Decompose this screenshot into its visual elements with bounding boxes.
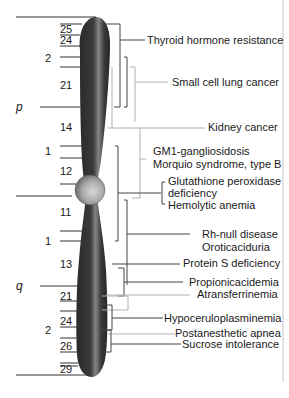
band-p21: 21 — [60, 79, 72, 91]
band-q11: 11 — [60, 206, 71, 218]
disease-small-cell-lung-cancer: Small cell lung cancer — [172, 76, 279, 88]
disease-rh-null: Rh-null disease — [202, 228, 278, 240]
band-p12: 12 — [60, 165, 72, 177]
disease-morquio-syndrome: Morquio syndrome, type B — [153, 158, 281, 170]
disease-oroticaciduria: Oroticaciduria — [202, 241, 271, 253]
region-q1: 1 — [45, 235, 51, 247]
disease-hypoceruloplasminemia: Hypoceruloplasminemia — [164, 312, 282, 324]
region-p2: 2 — [45, 52, 51, 64]
region-p1: 1 — [45, 145, 51, 157]
band-q26: 26 — [60, 340, 72, 352]
disease-gm1-gangliosidosis: GM1-gangliosidosis — [153, 145, 250, 157]
disease-atransferrinemia: Atransferrinemia — [197, 288, 279, 300]
band-q24: 24 — [60, 315, 72, 327]
disease-kidney-cancer: Kidney cancer — [208, 121, 278, 133]
q-arm-label: q — [16, 279, 23, 293]
disease-glutathione-deficiency: deficiency — [168, 187, 217, 199]
disease-labels: Thyroid hormone resistance Small cell lu… — [147, 34, 283, 350]
disease-hemolytic-anemia: Hemolytic anemia — [168, 199, 256, 211]
chromosome-p-arm — [80, 17, 110, 188]
band-p24: 24 — [60, 34, 72, 46]
region-q2: 2 — [45, 324, 51, 336]
disease-glutathione-peroxidase: Glutathione peroxidase — [168, 175, 281, 187]
chromosome-diagram: p q 2 1 1 2 25 24 21 14 12 11 13 21 24 2… — [0, 0, 289, 398]
band-q29: 29 — [60, 363, 72, 375]
disease-thyroid-hormone-resistance: Thyroid hormone resistance — [147, 34, 283, 46]
band-q13: 13 — [60, 258, 72, 270]
p-arm-label: p — [15, 100, 23, 114]
centromere — [75, 175, 105, 205]
chromosome-q-arm — [76, 196, 107, 377]
band-q21: 21 — [60, 290, 72, 302]
disease-propionicacidemia: Propionicacidemia — [189, 276, 280, 288]
disease-protein-s-deficiency: Protein S deficiency — [183, 257, 281, 269]
disease-sucrose-intolerance: Sucrose intolerance — [182, 338, 279, 350]
band-p14: 14 — [60, 121, 72, 133]
